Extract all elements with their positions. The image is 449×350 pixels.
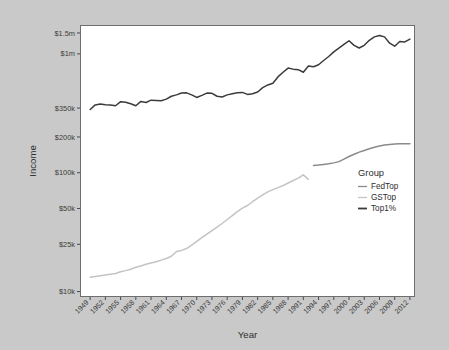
y-tick-label: $350k [55, 104, 75, 113]
y-tick-label: $25k [59, 240, 75, 249]
y-tick-label: $1.5m [54, 29, 75, 38]
chart-page: $10k$25k$50k$100k$200k$350k$1m$1.5m 1949… [0, 0, 449, 350]
legend-label-fedtop[interactable]: FedTop [371, 182, 399, 191]
income-by-group-line-chart: $10k$25k$50k$100k$200k$350k$1m$1.5m 1949… [0, 0, 449, 350]
y-tick-label: $10k [59, 287, 75, 296]
y-axis-title: Income [27, 145, 38, 176]
y-tick-label: $100k [55, 168, 75, 177]
y-tick-label: $1m [61, 49, 75, 58]
y-tick-label: $200k [55, 133, 75, 142]
legend-label-top1[interactable]: Top1% [371, 204, 396, 213]
chart-canvas: $10k$25k$50k$100k$200k$350k$1m$1.5m 1949… [0, 0, 449, 350]
legend-title: Group [358, 167, 384, 178]
x-axis-title: Year [238, 329, 258, 340]
legend-label-gstop[interactable]: GSTop [371, 193, 396, 202]
plot-panel-background [80, 25, 415, 297]
y-tick-label: $50k [59, 204, 75, 213]
